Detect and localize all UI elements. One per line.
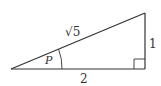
angle-arc [59, 49, 62, 69]
angle-label: P [44, 54, 53, 67]
opposite-label: 1 [149, 37, 157, 51]
hypotenuse-label: √5 [65, 25, 80, 39]
triangle-diagram: √5 1 2 P [0, 0, 161, 86]
right-angle-marker [134, 59, 145, 69]
adjacent-label: 2 [80, 72, 88, 86]
hypotenuse-side [11, 13, 145, 69]
